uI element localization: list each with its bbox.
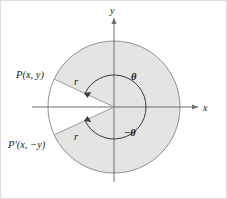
- x-axis-label: x: [202, 102, 208, 113]
- theta-label: θ: [131, 71, 137, 82]
- upper-point-label: P(x, y): [15, 69, 44, 81]
- lower-point-label: P'(x, −y): [7, 139, 46, 151]
- polar-diagram-svg: P(x, y) P'(x, −y) r r θ −θ x y: [0, 0, 227, 199]
- figure-container: P(x, y) P'(x, −y) r r θ −θ x y: [0, 0, 227, 199]
- y-axis-label: y: [109, 5, 115, 16]
- negative-theta-label: −θ: [124, 127, 136, 138]
